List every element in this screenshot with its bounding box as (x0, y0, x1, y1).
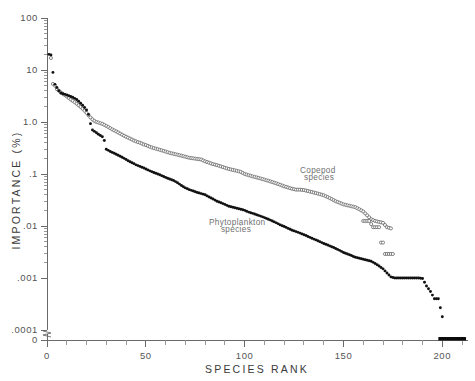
copepod-data-point (49, 56, 52, 59)
phytoplankton-data-point (83, 106, 86, 109)
axes-group: 100101.0.1.01.001.00010050100150200 (11, 12, 468, 361)
y-tick-label: 100 (20, 12, 38, 23)
y-axis-break-icon (43, 331, 51, 337)
phytoplankton-data-point (101, 135, 104, 138)
copepod-data-point (389, 227, 392, 230)
phytoplankton-data-point (85, 109, 88, 112)
phytoplankton-data-point (429, 290, 432, 293)
phytoplankton-data-point (55, 86, 58, 89)
phytoplankton-data-point (441, 315, 444, 318)
copepod-data-point (378, 226, 381, 229)
x-tick-label: 0 (44, 350, 50, 361)
x-tick-label: 200 (433, 350, 451, 361)
x-tick-label: 150 (335, 350, 353, 361)
phytoplankton-data-point (50, 53, 53, 56)
phytoplankton-data-point (427, 287, 430, 290)
copepod-data-point (391, 252, 394, 255)
zero-importance-bar (438, 337, 466, 341)
copepod-data-point (368, 219, 371, 222)
copepod-data-point (370, 223, 373, 226)
phytoplankton-data-point (431, 294, 434, 297)
phytoplankton-data-point (51, 71, 54, 74)
annotations-group: CopepodspeciesPhytoplanktonspecies (209, 166, 336, 234)
phytoplankton-data-point (53, 83, 56, 86)
phytoplankton-data-point (57, 89, 60, 92)
figure-container: 100101.0.1.01.001.00010050100150200 Cope… (0, 0, 475, 381)
phytoplankton-data-point (437, 297, 440, 300)
rank-abundance-chart: 100101.0.1.01.001.00010050100150200 Cope… (0, 0, 475, 381)
phytoplankton-data-point (81, 104, 84, 107)
y-axis-title: IMPORTANCE (%) (10, 130, 22, 249)
x-tick-label: 50 (140, 350, 152, 361)
series-annotation-label: species (221, 225, 251, 234)
y-tick-label: .01 (23, 220, 38, 231)
copepod-data-point (381, 241, 384, 244)
y-tick-label: 10 (26, 64, 38, 75)
y-tick-label: .001 (17, 272, 38, 283)
phytoplankton-data-point (421, 277, 424, 280)
data-points-group (48, 53, 466, 341)
x-axis-title: SPECIES RANK (205, 363, 309, 375)
phytoplankton-data-point (103, 139, 106, 142)
y-tick-label: .1 (29, 168, 38, 179)
series-annotation-label: species (304, 173, 334, 182)
phytoplankton-data-point (87, 113, 90, 116)
y-tick-label: 0 (32, 334, 38, 345)
y-tick-label: 1.0 (23, 116, 38, 127)
phytoplankton-data-point (439, 306, 442, 309)
phytoplankton-data-point (89, 122, 92, 125)
x-tick-label: 100 (236, 350, 254, 361)
phytoplankton-data-point (425, 285, 428, 288)
phytoplankton-data-point (423, 281, 426, 284)
